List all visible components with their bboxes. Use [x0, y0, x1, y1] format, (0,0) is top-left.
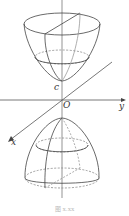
- origin-label: O: [63, 101, 70, 110]
- x-axis: [10, 62, 112, 140]
- upper-meridian-back: [62, 13, 80, 81]
- lower-meridian: [45, 118, 62, 188]
- y-axis-label: y: [119, 102, 124, 111]
- upper-meridian: [45, 34, 62, 81]
- figure-caption: 图 x.xx: [0, 204, 129, 213]
- upper-diag: [45, 13, 80, 34]
- vertex-label: c: [54, 83, 59, 92]
- lower-diag: [45, 168, 80, 188]
- x-axis-label: x: [11, 138, 16, 147]
